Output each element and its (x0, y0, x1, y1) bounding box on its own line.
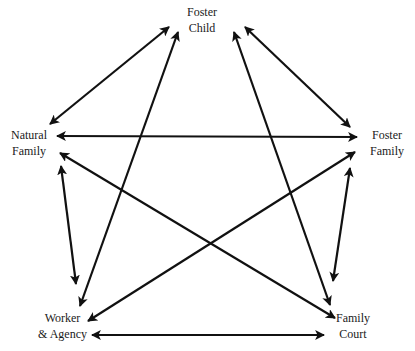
node-family-court-line2: Court (336, 326, 370, 342)
node-foster-child: Foster Child (187, 4, 217, 36)
node-family-court-line1: Family (336, 310, 370, 326)
edge-natural-family-foster-family (57, 136, 357, 137)
node-foster-child-line2: Child (187, 20, 217, 36)
node-foster-family-line2: Family (370, 143, 404, 159)
node-natural-family-line1: Natural (11, 127, 47, 143)
node-foster-family: Foster Family (370, 127, 404, 159)
node-worker-agency-line2: & Agency (38, 326, 87, 342)
node-foster-child-line1: Foster (187, 4, 217, 20)
node-foster-family-line1: Foster (370, 127, 404, 143)
edge-foster-child-family-court (234, 32, 330, 305)
node-natural-family: Natural Family (11, 127, 47, 159)
node-worker-agency-line1: Worker (38, 310, 87, 326)
node-family-court: Family Court (336, 310, 370, 342)
edge-foster-child-foster-family (245, 27, 350, 127)
edge-foster-family-family-court (333, 168, 350, 281)
node-worker-agency: Worker & Agency (38, 310, 87, 342)
edge-foster-family-worker-agency (88, 152, 355, 321)
edge-natural-family-family-court (60, 153, 335, 318)
node-natural-family-line2: Family (11, 143, 47, 159)
relationship-diagram (0, 0, 415, 351)
edge-natural-family-worker-agency (61, 166, 76, 284)
edge-foster-child-worker-agency (80, 32, 178, 306)
